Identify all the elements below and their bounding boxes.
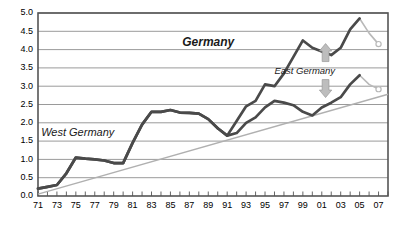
data-line-west-germany-post-1990 <box>218 75 360 135</box>
forecast-endpoint-marker <box>376 42 381 47</box>
y-axis-tick-label: 5.0 <box>20 7 33 17</box>
x-axis-tick-label: 79 <box>109 200 119 210</box>
y-axis-tick-label: 1.0 <box>20 154 33 164</box>
gap-arrow-down-icon <box>319 80 331 98</box>
annotation-east-germany: East Germany <box>274 65 336 76</box>
y-axis-tick-label: 1.5 <box>20 135 33 145</box>
x-axis-tick-label: 75 <box>71 200 81 210</box>
x-axis-tick-label: 97 <box>279 200 289 210</box>
x-axis-tick-label: 89 <box>203 200 213 210</box>
forecast-endpoint-marker <box>376 87 381 92</box>
y-axis-tick-label: 4.0 <box>20 44 33 54</box>
x-axis-tick-label: 77 <box>90 200 100 210</box>
x-axis-tick-label: 05 <box>355 200 365 210</box>
line-chart: 0.00.51.01.52.02.53.03.54.04.55.07173757… <box>0 0 405 234</box>
y-axis-tick-label: 2.0 <box>20 117 33 127</box>
x-axis-tick-label: 81 <box>128 200 138 210</box>
x-axis-tick-label: 93 <box>241 200 251 210</box>
x-axis-tick-label: 87 <box>184 200 194 210</box>
x-axis-tick-label: 07 <box>374 200 384 210</box>
x-axis-tick-label: 73 <box>52 200 62 210</box>
x-axis-tick-label: 03 <box>336 200 346 210</box>
y-axis-tick-label: 3.5 <box>20 62 33 72</box>
forecast-tail-line <box>360 75 379 89</box>
trend-line <box>38 94 388 194</box>
chart-container: 0.00.51.01.52.02.53.03.54.04.55.07173757… <box>0 0 405 234</box>
x-axis-tick-label: 83 <box>147 200 157 210</box>
x-axis-tick-label: 91 <box>222 200 232 210</box>
x-axis-tick-label: 01 <box>317 200 327 210</box>
y-axis-tick-label: 4.5 <box>20 26 33 36</box>
y-axis-tick-label: 0.5 <box>20 172 33 182</box>
x-axis-tick-label: 95 <box>260 200 270 210</box>
y-axis-tick-label: 2.5 <box>20 99 33 109</box>
y-axis-tick-label: 3.0 <box>20 81 33 91</box>
x-axis-tick-label: 71 <box>33 200 43 210</box>
y-axis-tick-label: 0.0 <box>20 190 33 200</box>
x-axis-tick-label: 99 <box>298 200 308 210</box>
series-label-germany: Germany <box>182 35 235 49</box>
series-label-west-germany: West Germany <box>41 126 116 138</box>
data-line-west-germany <box>38 110 218 189</box>
x-axis-tick-label: 85 <box>165 200 175 210</box>
